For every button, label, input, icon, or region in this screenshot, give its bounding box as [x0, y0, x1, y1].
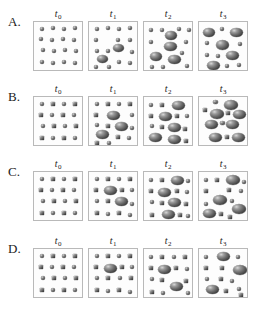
particle-sphere [177, 27, 181, 31]
particle-sphere [113, 44, 124, 52]
particle-sphere [118, 276, 122, 280]
particle-sphere [41, 124, 45, 128]
particle-sphere [117, 102, 121, 106]
row-label-row-c: C. [8, 164, 20, 180]
time-label-subscript: 1 [113, 13, 117, 21]
particle-cube [150, 213, 154, 217]
particle-sphere [186, 214, 190, 218]
particle-cube [40, 288, 44, 292]
simulation-panel-row-c-t3 [198, 171, 248, 221]
particle-sphere [72, 265, 76, 269]
particle-sphere [52, 49, 56, 53]
particle-sphere [180, 51, 184, 55]
particle-sphere [51, 288, 55, 292]
particle-sphere [51, 26, 55, 30]
panel-column-row-c-t2: t2 [143, 158, 193, 233]
particle-sphere [40, 254, 44, 258]
particle-sphere [127, 136, 131, 140]
particle-cube [73, 177, 77, 181]
particle-sphere [216, 40, 229, 50]
particle-cube [128, 177, 132, 181]
particle-sphere [62, 60, 66, 64]
simulation-panel-row-b-t0 [33, 96, 83, 146]
particle-sphere [237, 63, 241, 67]
particle-sphere [150, 52, 162, 61]
particle-sphere [205, 41, 209, 45]
particle-cube [215, 178, 219, 182]
particle-sphere [74, 49, 78, 53]
particle-cube [40, 211, 44, 215]
particle-sphere [40, 177, 44, 181]
particle-sphere [106, 49, 110, 53]
particle-sphere [73, 26, 77, 30]
particle-cube [204, 266, 208, 270]
particle-cube [61, 113, 65, 117]
particle-cube [184, 139, 188, 143]
particle-sphere [149, 133, 162, 142]
particle-cube [228, 215, 232, 219]
panel-column-row-a-t1: t1 [88, 8, 138, 83]
particle-cube [183, 255, 187, 259]
particle-cube [184, 279, 188, 283]
particle-sphere [213, 195, 227, 205]
particle-cube [39, 113, 43, 117]
particle-sphere [128, 213, 132, 217]
particle-cube [160, 178, 164, 182]
time-label-row-d-t1: t1 [88, 235, 138, 248]
particle-sphere [117, 177, 121, 181]
particle-sphere [210, 109, 224, 119]
particle-cube [239, 293, 243, 297]
particle-sphere [130, 188, 134, 192]
particle-sphere [95, 254, 99, 258]
time-label-row-d-t2: t2 [143, 235, 193, 248]
particle-sphere [237, 287, 241, 291]
particle-sphere [168, 123, 181, 132]
simulation-panel-row-c-t0 [33, 171, 83, 221]
particle-cube [74, 124, 78, 128]
particle-cube [95, 288, 99, 292]
particle-sphere [149, 255, 153, 259]
particle-cube [128, 254, 132, 258]
particle-sphere [185, 267, 189, 271]
panel-column-row-a-t0: t0 [33, 8, 83, 83]
time-label-subscript: 0 [58, 240, 62, 248]
particle-sphere [224, 100, 238, 110]
time-label-subscript: 3 [223, 13, 227, 21]
particle-cube [117, 211, 121, 215]
time-label-subscript: 3 [223, 163, 227, 171]
particle-sphere [50, 113, 54, 117]
particle-sphere [130, 265, 134, 269]
row-label-row-b: B. [8, 89, 20, 105]
particle-sphere [40, 60, 44, 64]
particle-sphere [186, 291, 190, 295]
particle-sphere [62, 102, 66, 106]
time-label-row-c-t3: t3 [198, 158, 248, 171]
particle-sphere [172, 101, 185, 110]
particle-sphere [95, 123, 99, 127]
particle-sphere [63, 276, 67, 280]
particle-sphere [205, 53, 209, 57]
particle-sphere [115, 122, 128, 131]
particle-cube [227, 188, 231, 192]
panel-column-row-a-t3: t3 [198, 8, 248, 83]
particle-sphere [150, 124, 154, 128]
particle-sphere [62, 27, 66, 31]
particle-cube [61, 265, 65, 269]
row-label-row-d: D. [8, 241, 21, 257]
particle-sphere [165, 31, 177, 40]
particle-sphere [161, 65, 165, 69]
time-label-subscript: 3 [223, 240, 227, 248]
particle-sphere [94, 38, 98, 42]
particle-cube [225, 135, 229, 139]
simulation-panel-row-a-t0 [33, 21, 83, 71]
particle-sphere [130, 113, 134, 117]
particle-cube [174, 266, 178, 270]
particle-sphere [51, 211, 55, 215]
particle-cube [175, 189, 179, 193]
particle-cube [220, 266, 224, 270]
particle-cube [160, 125, 164, 129]
particle-sphere [213, 100, 218, 104]
particle-sphere [94, 65, 98, 69]
particle-sphere [130, 202, 134, 206]
particle-sphere [106, 26, 110, 30]
